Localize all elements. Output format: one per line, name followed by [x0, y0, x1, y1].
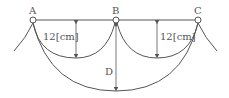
support-b-icon — [113, 17, 119, 23]
support-a-icon — [30, 17, 36, 23]
wire-tail-right — [198, 23, 217, 51]
support-label-b: B — [112, 6, 119, 16]
support-label-c: C — [194, 6, 202, 16]
sag-label-total: D — [105, 67, 113, 77]
sag-label-right: 12[cm] — [160, 32, 196, 42]
support-c-icon — [195, 17, 201, 23]
wire-tail-left — [14, 23, 33, 51]
sag-label-left: 12[cm] — [43, 32, 79, 42]
support-label-a: A — [29, 6, 36, 16]
